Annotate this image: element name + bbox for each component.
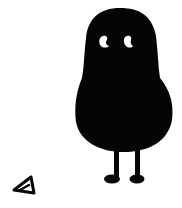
blob-creature-icon: [75, 8, 172, 184]
illustration-canvas: [0, 0, 182, 208]
right-foot: [130, 175, 145, 184]
triangle-icon: [14, 177, 34, 193]
illustration-svg: [0, 0, 182, 208]
creature-body: [75, 8, 172, 152]
left-foot: [104, 175, 120, 184]
